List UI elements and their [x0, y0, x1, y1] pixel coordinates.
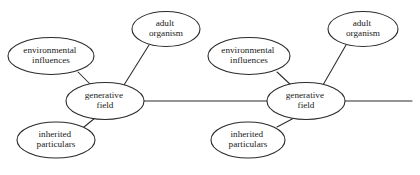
node-label-line1: environmental: [23, 45, 77, 55]
node-label-line2: particulars: [37, 139, 76, 149]
node-label-line2: organism: [149, 28, 183, 38]
node-generative-field-left[interactable]: generative field: [66, 83, 144, 120]
edge-inherited-to-field-right: [277, 118, 294, 127]
node-environmental-influences-right[interactable]: environmental influences: [208, 38, 290, 75]
node-label-line1: generative: [85, 90, 123, 100]
node-label-line2: influences: [230, 55, 268, 65]
diagram-canvas: environmental influences adult organism …: [0, 0, 420, 175]
node-inherited-particulars-right[interactable]: inherited particulars: [211, 122, 285, 158]
node-label-line2: influences: [32, 55, 70, 65]
cluster-left: environmental influences adult organism …: [8, 12, 200, 159]
node-label: inherited particulars: [229, 129, 268, 149]
node-environmental-influences-left[interactable]: environmental influences: [8, 38, 94, 75]
node-generative-field-right[interactable]: generative field: [267, 83, 345, 120]
node-label-line2: particulars: [229, 139, 268, 149]
node-label-line1: environmental: [221, 45, 275, 55]
node-label-line1: inherited: [39, 129, 72, 139]
node-adult-organism-right[interactable]: adult organism: [328, 12, 398, 47]
node-label: inherited particulars: [37, 129, 76, 149]
cluster-right: environmental influences adult organism …: [208, 12, 398, 159]
node-label-line1: generative: [286, 90, 324, 100]
node-label-line1: adult: [353, 18, 372, 28]
edge-adult-to-field-right: [323, 45, 346, 85]
node-label-line2: organism: [346, 28, 380, 38]
node-adult-organism-left[interactable]: adult organism: [132, 12, 200, 47]
edge-inherited-to-field-left: [84, 118, 95, 127]
node-label-line2: field: [298, 100, 315, 110]
node-inherited-particulars-left[interactable]: inherited particulars: [17, 122, 95, 158]
node-label-line2: field: [97, 100, 114, 110]
node-label-line1: adult: [156, 18, 175, 28]
node-label-line1: inherited: [231, 129, 264, 139]
diagram-root: environmental influences adult organism …: [0, 0, 420, 175]
edge-adult-to-field-left: [124, 45, 149, 85]
